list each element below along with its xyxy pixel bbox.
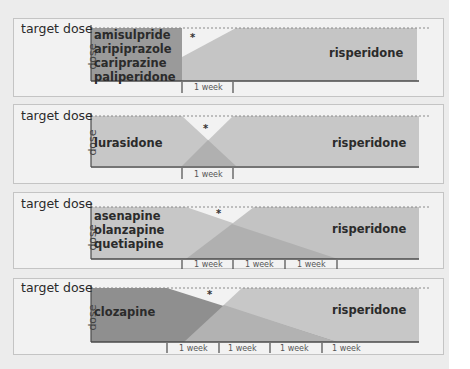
first-drug-list: amisulpride aripiprazole cariprazine pal… xyxy=(94,28,176,84)
first-drug-list: asenapine olanzapine quetiapine xyxy=(94,209,164,251)
drug-name: aripiprazole xyxy=(94,42,176,56)
gap-marker: * xyxy=(203,123,208,134)
drug-name: olanzapine xyxy=(94,223,164,237)
target-dose-label: target dose xyxy=(21,108,93,123)
gap-marker: * xyxy=(207,289,212,300)
panel-cross-taper-1wk: target dose dose lurasidone * risperidon… xyxy=(13,104,444,184)
week-label: 1 week xyxy=(332,344,361,353)
drug-name: cariprazine xyxy=(94,56,176,70)
target-dose-label: target dose xyxy=(21,21,93,36)
second-drug-label: risperidone xyxy=(332,303,406,317)
week-label: 1 week xyxy=(194,170,223,179)
first-drug-label: lurasidone xyxy=(94,136,162,150)
week-label: 1 week xyxy=(194,260,223,269)
first-drug-label: clozapine xyxy=(94,305,155,319)
target-dose-label: target dose xyxy=(21,280,93,295)
target-dose-label: target dose xyxy=(21,196,93,211)
gap-marker: * xyxy=(190,32,195,43)
week-label: 1 week xyxy=(194,83,223,92)
week-label: 1 week xyxy=(297,260,326,269)
second-drug-label: risperidone xyxy=(332,222,406,236)
week-label: 1 week xyxy=(228,344,257,353)
panel-switch-abrupt: target dose dose amisulpride aripiprazol… xyxy=(13,18,444,97)
panel-cross-taper-3wk: target dose dose asenapine olanzapine qu… xyxy=(13,192,444,269)
second-drug-label: risperidone xyxy=(332,136,406,150)
panel-clozapine-taper-4wk: target dose dose clozapine * risperidone… xyxy=(13,278,444,355)
week-label: 1 week xyxy=(179,344,208,353)
second-drug-label: risperidone xyxy=(329,46,403,60)
drug-name: amisulpride xyxy=(94,28,176,42)
drug-name: asenapine xyxy=(94,209,164,223)
drug-name: quetiapine xyxy=(94,237,164,251)
week-label: 1 week xyxy=(245,260,274,269)
drug-name: paliperidone xyxy=(94,70,176,84)
gap-marker: * xyxy=(216,208,221,219)
week-label: 1 week xyxy=(280,344,309,353)
